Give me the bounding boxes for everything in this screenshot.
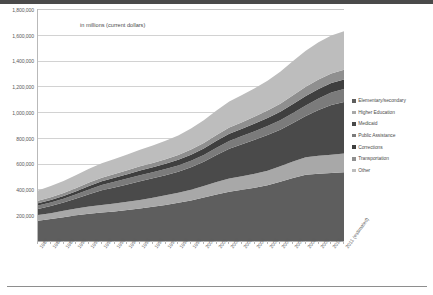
chart-subtitle: in millions (current dollars) [80,22,145,28]
y-axis-tick-label: 1,600,000 [0,33,34,39]
y-axis-tick-label: 800,000 [0,136,34,142]
legend-swatch-icon [352,134,356,138]
legend-item[interactable]: Higher Education [352,107,432,119]
y-axis-tick-label: 1,800,000 [0,7,34,13]
x-axis-tick [305,241,306,244]
legend-item-label: Corrections [358,145,382,150]
legend-item[interactable]: Medicaid [352,118,432,130]
x-axis-tick [101,241,102,244]
x-axis-tick [152,241,153,244]
x-axis-tick [50,241,51,244]
legend-swatch-icon [352,157,356,161]
legend-item-label: Elementary/secondary [358,98,406,103]
legend-item-label: Other [358,168,370,173]
x-axis-tick [190,241,191,244]
x-axis-tick [203,241,204,244]
y-axis-tick-label: 1,200,000 [0,84,34,90]
legend-swatch-icon [352,111,356,115]
x-axis-tick [241,241,242,244]
x-axis-tick [292,241,293,244]
x-axis-tick [254,241,255,244]
y-axis-tick-label: 200,000 [0,213,34,219]
x-axis-tick [318,241,319,244]
chart-legend: Elementary/secondaryHigher EducationMedi… [352,95,432,176]
area-series-group [38,9,344,241]
x-axis-tick [165,241,166,244]
legend-item-label: Public Assistance [358,133,395,138]
y-axis-tick-label: 600,000 [0,161,34,167]
x-axis-tick [114,241,115,244]
legend-item[interactable]: Corrections [352,141,432,153]
plot-area: in millions (current dollars) [37,9,344,241]
legend-item[interactable]: Elementary/secondary [352,95,432,107]
legend-item-label: Higher Education [358,110,395,115]
legend-swatch-icon [352,122,356,126]
y-axis-tick-label: 1,000,000 [0,110,34,116]
x-axis-tick [37,241,38,244]
x-axis-tick [139,241,140,244]
x-axis-tick [63,241,64,244]
legend-item[interactable]: Public Assistance [352,130,432,142]
legend-swatch-icon [352,169,356,173]
legend-item-label: Transportation [358,156,389,161]
legend-item-label: Medicaid [358,121,377,126]
y-axis-tick-label: 400,000 [0,187,34,193]
stacked-area-chart-figure: 1,800,000 1,600,000 1,400,000 1,200,000 … [0,0,433,295]
x-axis-tick [216,241,217,244]
legend-swatch-icon [352,145,356,149]
x-axis-tick [343,241,344,244]
x-axis-tick [267,241,268,244]
legend-item[interactable]: Transportation [352,153,432,165]
x-axis-tick-label: 2011 (estimated) [344,216,370,249]
bottom-divider [7,286,427,287]
legend-swatch-icon [352,99,356,103]
x-axis-tick [88,241,89,244]
legend-item[interactable]: Other [352,165,432,177]
y-axis-tick-label: 1,400,000 [0,58,34,64]
